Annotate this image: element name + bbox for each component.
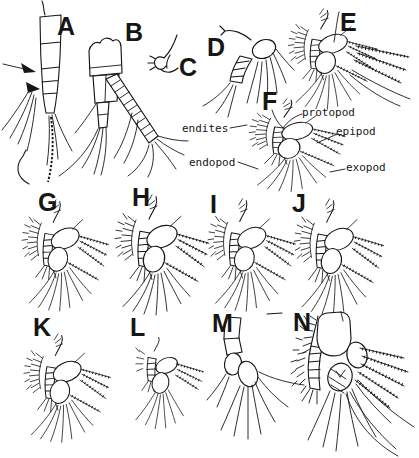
panel-g-drawing xyxy=(22,200,108,311)
limb-plate-canvas: A B C D E xyxy=(0,0,419,458)
panel-l-letter: L xyxy=(130,313,145,341)
endopod-leader-line xyxy=(238,162,258,169)
left-setae xyxy=(2,89,36,151)
figure-plate: A B C D E xyxy=(0,0,419,458)
mid-segment xyxy=(224,338,242,355)
segment-chain xyxy=(230,56,252,83)
endopod-setae xyxy=(302,389,317,404)
protopod-segment xyxy=(317,312,351,356)
exopod-leader-line xyxy=(330,169,345,172)
panel-a-letter: A xyxy=(57,12,75,40)
left-setae xyxy=(203,83,236,117)
basal-segment xyxy=(89,38,122,76)
maxilla-outline xyxy=(148,35,178,72)
label-endopod: endopod xyxy=(189,156,235,169)
panel-k-letter: K xyxy=(33,313,51,341)
panel-d-letter: D xyxy=(207,33,225,61)
label-epipod: epipod xyxy=(336,125,376,138)
panel-c-drawing xyxy=(148,35,178,72)
seta-base xyxy=(21,63,36,73)
hooked-seta xyxy=(18,150,29,184)
epipod-leader-line xyxy=(317,135,335,143)
panel-l-drawing xyxy=(136,337,204,428)
label-exopod: exopod xyxy=(346,161,386,174)
left-setae xyxy=(207,374,229,407)
panel-n-letter: N xyxy=(293,308,311,336)
panel-h-letter: H xyxy=(132,183,150,211)
panel-h-drawing xyxy=(115,195,209,315)
panel-b-drawing xyxy=(59,38,188,177)
panel-k-drawing xyxy=(24,334,110,442)
panel-j-drawing xyxy=(294,199,383,315)
plumose-barbs xyxy=(357,349,407,407)
label-protopod: protopod xyxy=(302,106,355,119)
panel-c-letter: C xyxy=(179,53,197,81)
setae-fan xyxy=(221,372,304,439)
label-endites: endites xyxy=(182,122,228,135)
limb-figure xyxy=(288,9,377,110)
panel-i-drawing xyxy=(208,199,295,311)
panel-i-letter: I xyxy=(210,190,217,218)
setae-fan xyxy=(308,380,414,456)
panel-g-letter: G xyxy=(38,188,57,216)
panel-f-letter: F xyxy=(262,87,277,115)
lower-setae xyxy=(350,70,410,106)
distal-segment xyxy=(250,36,279,62)
panel-m-letter: M xyxy=(212,309,233,337)
tip-setae xyxy=(128,136,188,177)
panel-n-drawing xyxy=(267,312,414,456)
panel-b-letter: B xyxy=(125,18,143,46)
panel-j-letter: J xyxy=(292,189,306,217)
endites-leader-line xyxy=(230,125,247,128)
panel-e-letter: E xyxy=(340,8,357,36)
endopod-segments xyxy=(308,346,322,390)
